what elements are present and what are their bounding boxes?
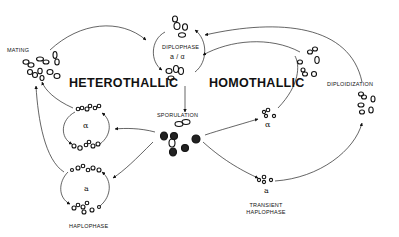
homo-alpha-cells [262,108,275,117]
label-mating: MATING [7,48,29,54]
arrow-alpha-cycle-right [100,113,109,144]
label-diplophase: DIPLOPHASE [162,45,199,51]
label-diplophase-mating-type: a / α [170,53,185,60]
label-sporulation: SPORULATION [157,113,198,119]
label-homo-a: a [264,187,269,195]
arrow-sporulation-to-homo-alpha [205,119,258,135]
label-heterothallic: HETEROTHALLIC [69,77,178,90]
arrow-sporulation-to-homo-a [203,142,258,178]
arrow-a-cycle-right [100,172,109,206]
arrow-diploidization-to-diplophase [205,27,362,82]
arrow-sporulation-to-a [113,142,153,178]
arrow-a-cycle-left [61,172,70,204]
arrow-a-to-mating [36,86,64,172]
homo-a-cells [257,175,272,183]
homothallic-cells [298,47,320,77]
label-diploidization: DIPLOIDIZATION [327,82,373,88]
arrow-sporulation-to-alpha [115,128,155,132]
diploidization-cells [358,92,375,114]
arrow-homo-a-to-diploidization [275,123,362,181]
arrow-homo-cells-to-diplophase [203,42,300,55]
mating-cells [23,52,60,81]
label-het-a: a [84,185,89,193]
arrow-alpha-cycle-left [63,112,75,144]
arrow-diplophase-cycle-right [195,30,205,72]
arrow-diplophase-cycle-left [153,32,165,70]
arrow-mating-to-diplophase [50,26,146,50]
label-homo-alpha: α [265,121,270,129]
life-cycle-diagram [0,0,399,237]
label-haplophase: HAPLOPHASE [69,224,108,230]
diplophase-cells-top [173,16,188,37]
label-het-alpha: α [83,122,88,130]
label-transient-haplophase: HAPLOPHASE [244,210,288,216]
label-transient: TRANSIENT [246,203,286,209]
alpha-cells-top [76,104,101,111]
a-cells-top [71,164,102,172]
label-homothallic: HOMOTHALLIC [209,77,305,90]
a-cells-bottom [72,201,101,214]
sporulation-asci [161,120,201,157]
alpha-cells-bottom [72,140,100,150]
